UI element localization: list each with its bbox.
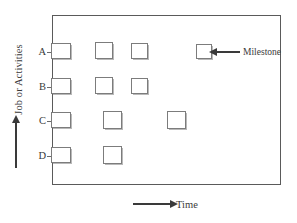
y-axis-up-arrow-icon (15, 122, 17, 168)
x-axis-label-group: Time (133, 197, 198, 211)
gantt-milestone-chart: Job or Activities A B C D Milestone Time (0, 0, 297, 223)
milestone-annotation-label: Milestone (243, 47, 281, 57)
milestone-marker[interactable] (51, 78, 71, 94)
row-label-c: C (32, 116, 46, 127)
milestone-marker[interactable] (131, 43, 148, 59)
milestone-marker[interactable] (95, 42, 113, 59)
x-axis-title: Time (176, 199, 198, 210)
x-axis-right-arrow-icon (133, 203, 171, 205)
milestone-marker[interactable] (95, 77, 113, 94)
row-label-d: D (32, 151, 46, 162)
milestone-marker[interactable] (51, 147, 71, 163)
milestone-marker[interactable] (131, 78, 148, 94)
milestone-marker[interactable] (103, 111, 122, 129)
y-axis-label-group: Job or Activities (6, 30, 28, 148)
milestone-marker[interactable] (51, 112, 71, 128)
row-label-a: A (32, 47, 46, 58)
milestone-marker[interactable] (51, 43, 71, 59)
arrow-left-icon (216, 51, 240, 53)
milestone-marker[interactable] (103, 146, 122, 164)
plot-frame (52, 15, 281, 185)
milestone-marker[interactable] (167, 111, 186, 129)
milestone-annotation: Milestone (216, 45, 281, 59)
row-label-b: B (32, 82, 46, 93)
